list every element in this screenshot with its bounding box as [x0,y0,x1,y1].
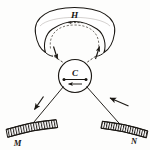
left-bar [6,118,58,137]
band-left-foot [46,53,54,57]
horseshoe-band: H [35,8,114,57]
circle-label-C: C [72,68,79,78]
lower-left-arrow [35,97,44,110]
ray-arrows [54,47,100,60]
armature-dot-left [63,78,66,81]
left-bar-label-M: M [13,138,22,148]
center-circle: C [59,60,92,93]
right-ray-arrow [96,47,100,60]
left-bar-body [6,118,58,137]
right-bar [101,120,148,138]
band-inner-dashed-contour [50,25,99,49]
lower-right-arrow [110,98,129,106]
band-label-H: H [70,10,79,20]
lower-ray-arrows [35,97,129,110]
figure-canvas: H C [0,0,150,150]
ray-to-N [87,87,123,127]
right-bar-label-N: N [130,137,138,146]
diagram-svg: H C [0,0,150,150]
armature-dot-right [85,78,88,81]
